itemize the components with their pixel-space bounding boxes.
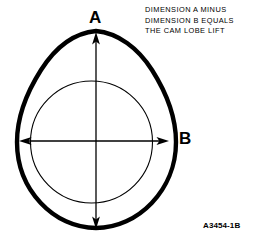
figure-reference-code: A3454-1B (203, 221, 240, 230)
base-circle (31, 81, 153, 203)
cam-lobe-figure: DIMENSION A MINUS DIMENSION B EQUALS THE… (0, 0, 253, 243)
dimension-b-label: B (179, 130, 191, 147)
caption-line-2: DIMENSION B EQUALS (145, 16, 251, 27)
dimension-a-arrow (92, 32, 100, 229)
caption-line-1: DIMENSION A MINUS (145, 5, 251, 16)
dimension-a-label: A (89, 9, 101, 26)
caption-line-3: THE CAM LOBE LIFT (145, 26, 251, 37)
dimension-b-arrow (19, 137, 169, 145)
caption-note: DIMENSION A MINUS DIMENSION B EQUALS THE… (145, 5, 251, 37)
